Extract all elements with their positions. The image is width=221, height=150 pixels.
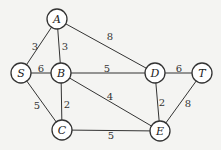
edge-weight-label: 6 — [176, 63, 182, 74]
node-label: S — [17, 67, 25, 80]
node-label: C — [58, 124, 67, 137]
edge-weight-label: 3 — [62, 41, 68, 52]
node-label: D — [150, 67, 160, 80]
edge-weight-label: 6 — [38, 63, 44, 74]
edge-weight-label: 5 — [104, 63, 110, 74]
node-label: A — [52, 13, 61, 26]
nodes-layer: ASBDTCE — [11, 9, 212, 141]
node-label: E — [155, 125, 164, 138]
node-e: E — [150, 121, 170, 141]
node-label: B — [56, 67, 65, 80]
edge-weight-label: 5 — [34, 100, 40, 111]
weighted-graph-diagram: 338656524528 ASBDTCE — [0, 0, 221, 150]
node-t: T — [192, 63, 212, 83]
edge-b-e — [61, 73, 160, 131]
edge-weight-label: 8 — [107, 31, 113, 42]
node-b: B — [51, 63, 71, 83]
edge-weight-label: 2 — [64, 99, 70, 110]
node-c: C — [52, 120, 72, 140]
edge-weight-label: 3 — [32, 41, 38, 52]
edge-weight-label: 8 — [185, 98, 191, 109]
edge-t-e — [160, 73, 202, 131]
node-a: A — [47, 9, 67, 29]
edge-weight-label: 5 — [108, 130, 114, 141]
edge-weight-label: 2 — [159, 97, 165, 108]
node-d: D — [145, 63, 165, 83]
edge-weight-label: 4 — [107, 91, 113, 102]
node-s: S — [11, 63, 31, 83]
